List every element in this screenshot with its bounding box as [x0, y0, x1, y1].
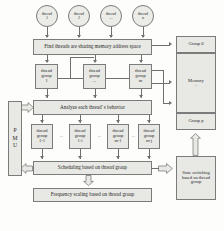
scheduling-to-frequency-block-arrow: [83, 175, 94, 186]
arrowhead-tg1i-down: [78, 120, 82, 123]
thread-group-top-1-line3: 1: [44, 79, 48, 84]
arrowhead-tg11-sched: [40, 156, 44, 159]
thread-group-bottom-m-j-line3: m-j: [145, 139, 153, 144]
connector-groupmid-to-groupm: [106, 78, 129, 79]
arrowhead-group0-right: [169, 42, 172, 46]
arrowhead-thread2-down: [77, 35, 81, 38]
connector-group1-to-groupmid: [58, 78, 83, 79]
thread-group-top-1: thread group 1: [35, 64, 58, 89]
scan-speckle-bottom-right: .: [208, 210, 209, 215]
state-switching-box: State switching based on thread group: [176, 156, 216, 200]
connector-memory-riser-top: [152, 70, 163, 71]
state-switching-label: State switching based on thread group: [177, 171, 215, 185]
memory-group-first-box: Group 0: [176, 36, 216, 53]
arrowhead-groupmid-down: [93, 60, 97, 63]
frequency-scaling-label: Frequency scaling based on thread group: [50, 192, 136, 197]
frequency-scaling-box: Frequency scaling based on thread group: [33, 188, 152, 202]
scheduling-to-state-switching-block-arrow: [158, 163, 173, 174]
thread-node-2: thread 2: [68, 5, 90, 27]
scheduling-label: Scheduling based on thread group: [57, 165, 128, 170]
pmu-line3: U: [12, 142, 18, 150]
connector-groupm-to-memory: [152, 83, 170, 84]
thread-node-n: thread n: [132, 5, 154, 27]
thread-group-top-m: thread group m: [129, 64, 152, 89]
scheduling-box: Scheduling based on thread group: [33, 161, 152, 175]
thread-node-1-line2: 1: [46, 16, 48, 20]
thread-group-bottom-1-1: thread group 1-1: [31, 124, 53, 149]
arrowhead-thread1-down: [45, 35, 49, 38]
pmu-box: P M U: [8, 101, 22, 176]
connector-chain-riser: [70, 57, 71, 78]
arrowhead-groupmid-analyze: [93, 95, 97, 98]
thread-node-ellipsis-line2: ...: [109, 16, 112, 20]
arrowhead-threadn-down: [141, 35, 145, 38]
ellipsis-between-tgm1-tgmj: ...: [129, 133, 138, 138]
thread-group-bottom-1-i-line3: 1-i: [77, 139, 84, 144]
scan-speckle-bottom-left: . .: [6, 215, 9, 220]
arrowhead-tg11-down: [40, 120, 44, 123]
arrowhead-group1-down: [45, 60, 49, 63]
thread-group-bottom-1-1-line3: 1-1: [38, 139, 46, 144]
thread-node-n-line2: n: [142, 16, 144, 20]
arrowhead-groupm-down: [139, 60, 143, 63]
find-threads-box: Find threads are sharing memory address …: [33, 39, 152, 55]
arrowhead-tgm1-sched: [116, 156, 120, 159]
arrowhead-group1-analyze: [45, 95, 49, 98]
memory-ellipsis: ...: [194, 83, 199, 87]
thread-group-top-ellipsis: thread group ...: [83, 64, 106, 89]
find-threads-label: Find threads are sharing memory address …: [43, 44, 141, 49]
memory-group-last-label: Group p: [187, 119, 204, 124]
arrowhead-tgmj-down: [147, 120, 151, 123]
pmu-to-analyze-block-arrow: [21, 102, 34, 113]
arrowhead-memory-right: [169, 80, 172, 84]
state-switching-to-memory-block-arrow: [190, 133, 201, 156]
ellipsis-between-tg1i-tgm1: ...: [93, 133, 106, 138]
analyze-box: Analyze each thread' s behavior: [33, 100, 152, 115]
memory-middle-box: Memory ...: [176, 53, 216, 113]
ellipsis-between-tg11-tg1i: ...: [55, 133, 68, 138]
arrowhead-groupm-analyze: [139, 95, 143, 98]
arrowhead-tgmj-sched: [147, 156, 151, 159]
thread-group-top-ellipsis-line3: ...: [92, 79, 97, 84]
arrowhead-tgm1-down: [116, 120, 120, 123]
arrowhead-tg1i-sched: [78, 156, 82, 159]
thread-node-2-line2: 2: [78, 16, 80, 20]
flow-diagram: thread 1 thread 2 thread ... thread n Fi…: [0, 0, 224, 231]
connector-memory-riser: [163, 70, 164, 103]
connector-chain-riser-top: [70, 57, 94, 58]
pmu-line2: M: [12, 135, 19, 143]
connector-scheduling-to-state-switching: [152, 168, 159, 169]
thread-group-top-m-line3: m: [138, 79, 144, 84]
pmu-line1: P: [12, 127, 17, 135]
memory-group-first-label: Group 0: [187, 42, 204, 47]
thread-group-bottom-m-1: thread group m-1: [107, 124, 129, 149]
connector-find-to-group0: [152, 45, 170, 46]
thread-group-bottom-m-j: thread group m-j: [138, 124, 160, 149]
arrowhead-groupp-right: [169, 101, 172, 105]
arrowhead-thread-ellipsis-down: [109, 35, 113, 38]
thread-group-bottom-1-i: thread group 1-i: [69, 124, 91, 149]
thread-group-bottom-m-1-line3: m-1: [113, 139, 122, 144]
thread-node-1: thread 1: [36, 5, 58, 27]
memory-group-last-box: Group p: [176, 113, 216, 130]
thread-node-ellipsis: thread ...: [100, 5, 122, 27]
analyze-label: Analyze each thread' s behavior: [59, 105, 126, 110]
